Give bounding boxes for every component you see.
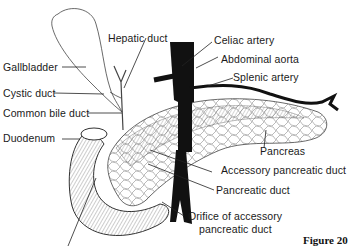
label-splenic-artery: Splenic artery xyxy=(233,72,299,83)
label-celiac-artery: Celiac artery xyxy=(214,35,274,46)
label-pancreatic-duct: Pancreatic duct xyxy=(216,185,290,196)
label-pancreas: Pancreas xyxy=(260,146,305,157)
label-cystic-duct: Cystic duct xyxy=(3,88,55,99)
label-hepatic-duct: Hepatic duct xyxy=(108,33,168,44)
label-accessory-pancreatic-duct: Accessory pancreatic duct xyxy=(221,165,346,176)
label-orifice-line2: pancreatic duct xyxy=(199,224,272,235)
label-abdominal-aorta: Abdominal aorta xyxy=(221,54,299,65)
figure-caption: Figure 20 xyxy=(303,234,348,246)
label-gallbladder: Gallbladder xyxy=(3,62,58,73)
label-common-bile-duct: Common bile duct xyxy=(3,108,89,119)
duodenum-opening xyxy=(81,128,107,140)
label-orifice-line1: Orifice of accessory xyxy=(188,211,282,222)
abdominal-aorta-shape xyxy=(170,42,194,104)
gallbladder-shape xyxy=(52,9,122,112)
label-duodenum: Duodenum xyxy=(3,133,55,144)
